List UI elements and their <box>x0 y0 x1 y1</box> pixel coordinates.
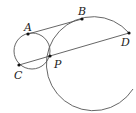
label-d: D <box>120 36 130 49</box>
segment-ab <box>28 19 82 34</box>
label-p: P <box>53 58 62 71</box>
point-p <box>48 54 51 57</box>
segment-cd <box>19 33 129 65</box>
label-a: A <box>23 21 32 34</box>
label-b: B <box>77 5 86 18</box>
geometry-diagram: A B C D P <box>0 0 136 113</box>
point-d <box>127 31 130 34</box>
point-c <box>17 63 20 66</box>
label-c: C <box>14 69 23 82</box>
